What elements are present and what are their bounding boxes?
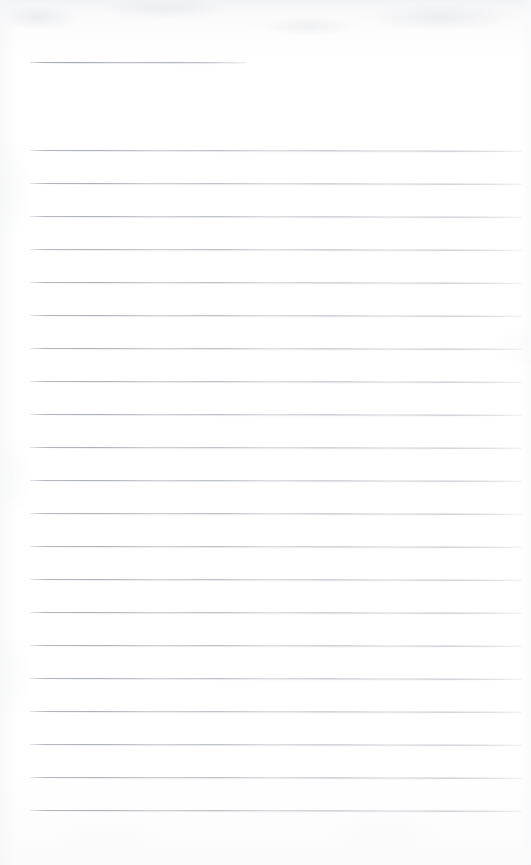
ruled-line-21	[30, 810, 522, 812]
ruled-line-9	[30, 414, 522, 416]
scanned-page	[0, 0, 531, 865]
ruled-line-11	[30, 480, 522, 482]
ruled-line-12	[30, 513, 522, 515]
ruled-line-14	[30, 579, 522, 581]
ruled-line-10	[30, 447, 522, 449]
ruled-lines-layer	[0, 0, 531, 865]
ruled-line-16	[30, 645, 522, 647]
ruled-line-7	[30, 348, 522, 350]
ruled-line-19	[30, 744, 522, 746]
ruled-line-17	[30, 678, 522, 680]
ruled-line-4	[30, 249, 522, 251]
ruled-line-6	[30, 315, 522, 317]
ruled-line-8	[30, 381, 522, 383]
ruled-line-1	[30, 150, 522, 152]
ruled-line-3	[30, 216, 522, 218]
ruled-line-2	[30, 183, 522, 185]
ruled-line-5	[30, 282, 522, 284]
short-heading-rule	[30, 62, 246, 63]
ruled-line-18	[30, 711, 522, 713]
ruled-line-15	[30, 612, 522, 614]
ruled-line-20	[30, 777, 522, 779]
ruled-line-13	[30, 546, 522, 548]
